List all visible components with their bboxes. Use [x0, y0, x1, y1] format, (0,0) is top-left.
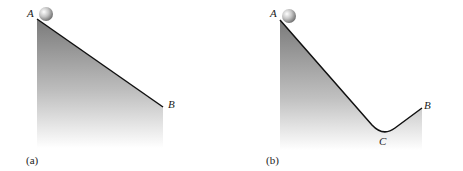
point-c-label: C	[379, 135, 386, 147]
point-b-label: B	[168, 98, 175, 110]
panel-a-incline	[37, 7, 163, 148]
diagram-canvas	[0, 0, 463, 171]
ball-icon	[39, 7, 53, 21]
point-b-label: B	[424, 99, 431, 111]
panel-b-caption: (b)	[266, 154, 279, 166]
point-a-label: A	[27, 7, 34, 19]
ball-icon	[282, 9, 296, 23]
panel-a-caption: (a)	[26, 154, 38, 166]
point-a-label: A	[270, 7, 277, 19]
panel-b-track	[280, 9, 422, 150]
